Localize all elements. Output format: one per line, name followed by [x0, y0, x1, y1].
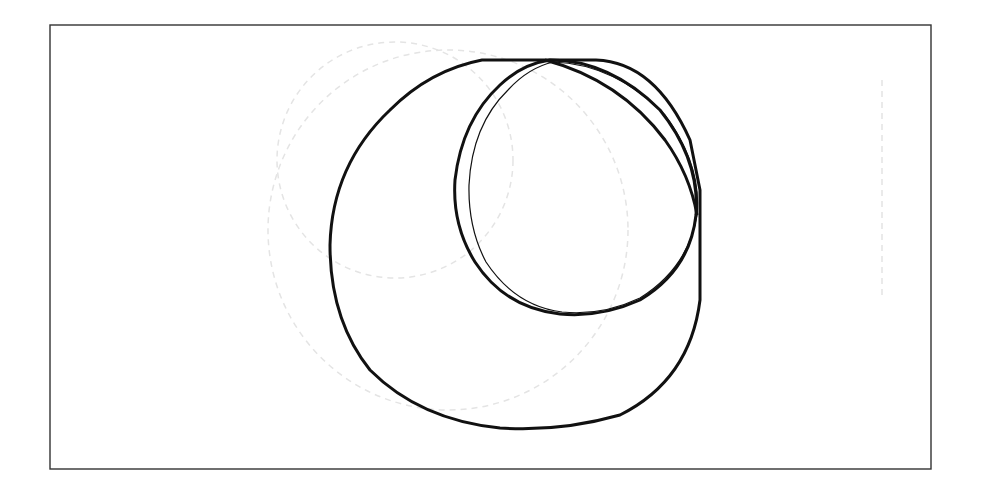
circles-diagram: [0, 0, 981, 494]
figure-background: [0, 0, 981, 494]
